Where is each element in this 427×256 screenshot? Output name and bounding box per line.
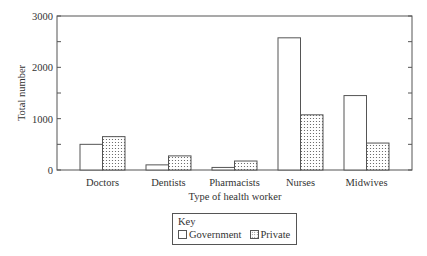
y-tick-label: 1000 (32, 114, 53, 125)
x-axis-category-labels: DoctorsDentistsPharmacistsNursesMidwives (86, 177, 388, 188)
legend-label-private: Private (261, 228, 291, 241)
x-category-label: Pharmacists (209, 177, 260, 188)
bar-government-pharmacists (212, 167, 235, 170)
y-axis-tick-labels: 0100020003000 (32, 11, 53, 176)
x-category-label: Midwives (346, 177, 388, 188)
y-tick-label: 2000 (32, 62, 53, 73)
x-axis-title: Type of health worker (189, 191, 282, 202)
y-tick-label: 0 (48, 165, 53, 176)
bar-government-dentists (146, 165, 169, 170)
x-category-label: Dentists (151, 177, 185, 188)
x-category-label: Doctors (86, 177, 119, 188)
bar-government-nurses (278, 38, 301, 170)
bar-private-pharmacists (235, 161, 258, 170)
bar-private-nurses (301, 115, 324, 170)
y-tick-label: 3000 (32, 11, 53, 22)
bar-government-midwives (344, 96, 367, 170)
legend: Key Government Private (172, 213, 297, 245)
x-category-label: Nurses (286, 177, 315, 188)
y-axis-title: Total number (16, 64, 27, 121)
bar-private-doctors (103, 137, 126, 170)
bar-private-dentists (169, 156, 192, 170)
legend-label-government: Government (189, 228, 242, 241)
private-swatch-icon (250, 230, 259, 239)
bar-government-doctors (80, 144, 103, 170)
bars (80, 38, 389, 170)
legend-items: Government Private (178, 228, 296, 241)
bar-private-midwives (367, 143, 390, 170)
legend-title: Key (178, 215, 296, 228)
government-swatch-icon (178, 230, 187, 239)
